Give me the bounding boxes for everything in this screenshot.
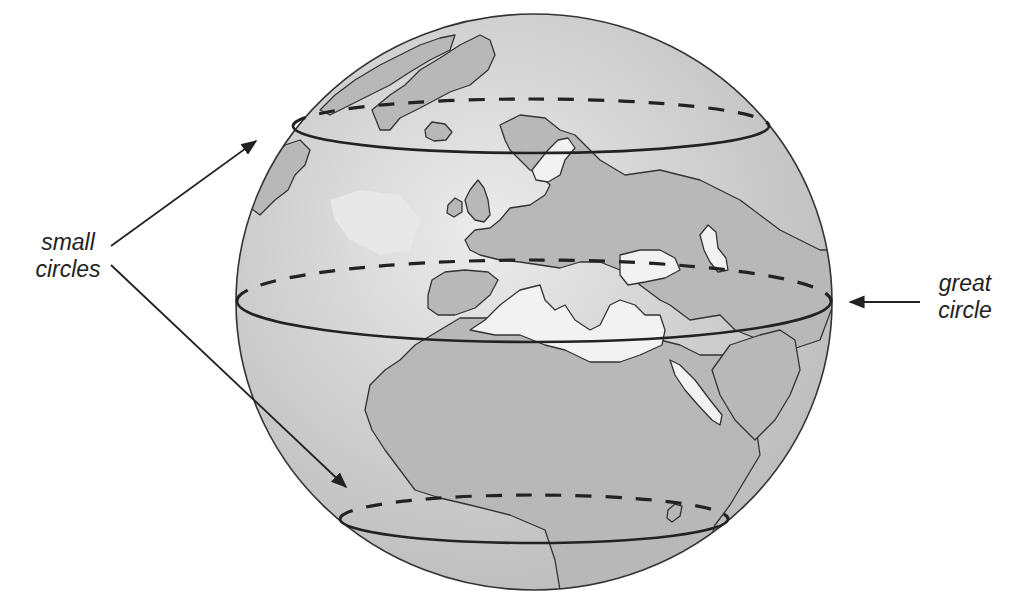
small-circles-label: small circles	[18, 229, 118, 283]
great-circle-label-line2: circle	[920, 297, 1009, 324]
south-america	[240, 500, 345, 600]
globe-diagram	[0, 0, 1009, 605]
small-circles-label-line2: circles	[18, 256, 118, 283]
great-circle-label-line1: great	[920, 270, 1009, 297]
arrow-to-upper-small-circle	[111, 141, 256, 246]
great-circle-label: great circle	[920, 270, 1009, 324]
small-circles-label-line1: small	[18, 229, 118, 256]
